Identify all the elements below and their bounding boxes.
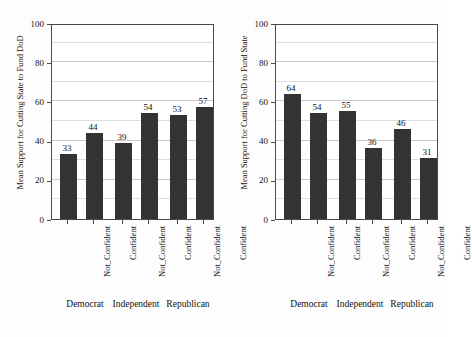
x-axis-tick-mark	[67, 220, 68, 224]
y-axis-tick-label-left: 60	[0, 98, 51, 107]
y-axis-tick-label-right: 40	[224, 137, 275, 146]
y-axis-tick-mark	[271, 102, 275, 103]
x-axis-tick-mark	[401, 220, 402, 224]
bar-value-label: 33	[50, 143, 84, 153]
x-axis-tick-label: Not_Confident	[327, 226, 336, 298]
bar	[86, 133, 103, 219]
x-axis-tick-label: Confident	[408, 226, 417, 298]
x-axis-tick-mark	[291, 220, 292, 224]
y-axis-tick-label-right: 100	[224, 20, 275, 29]
x-axis-tick-label: Not_Confident	[382, 226, 391, 298]
x-axis-tick-mark	[372, 220, 373, 224]
x-axis-tick-label: Not_Confident	[437, 226, 446, 298]
gridline-minor	[276, 42, 437, 43]
y-axis-tick-label-right: 0	[224, 216, 275, 225]
x-axis-tick-label: Confident	[463, 226, 472, 298]
y-axis-tick-mark	[271, 24, 275, 25]
y-axis-tick-label-right: 60	[224, 98, 275, 107]
bar-value-label: 39	[105, 132, 139, 142]
y-axis-tick-label-left: 80	[0, 59, 51, 68]
x-axis-tick-mark	[177, 220, 178, 224]
bar-value-label: 55	[329, 100, 363, 110]
x-axis-tick-mark	[427, 220, 428, 224]
bar-value-label: 64	[274, 83, 308, 93]
y-axis-tick-mark	[271, 181, 275, 182]
x-axis-tick-mark	[122, 220, 123, 224]
y-axis-tick-label-right: 80	[224, 59, 275, 68]
y-axis-tick-mark	[47, 220, 51, 221]
bar	[339, 111, 356, 219]
x-axis-tick-mark	[203, 220, 204, 224]
bar	[310, 113, 327, 219]
bar-value-label: 57	[186, 96, 220, 106]
chart-panel-left: Mean Support for Cutting State to Fund D…	[0, 0, 223, 337]
bar	[420, 158, 437, 219]
bar	[284, 94, 301, 219]
y-axis-tick-label-left: 40	[0, 137, 51, 146]
x-axis-tick-label: Not_Confident	[103, 226, 112, 298]
y-axis-tick-mark	[271, 63, 275, 64]
group-label-republican: Republican	[143, 299, 233, 310]
y-axis-tick-mark	[271, 142, 275, 143]
x-axis-tick-label: Confident	[184, 226, 193, 298]
bar	[365, 148, 382, 219]
x-axis-tick-mark	[93, 220, 94, 224]
x-axis-tick-mark	[317, 220, 318, 224]
y-axis-tick-mark	[47, 63, 51, 64]
gridline-minor	[52, 42, 213, 43]
y-axis-tick-mark	[47, 24, 51, 25]
y-axis-tick-label-left: 100	[0, 20, 51, 29]
bar-value-label: 46	[384, 118, 418, 128]
x-axis-tick-mark	[148, 220, 149, 224]
bar	[115, 143, 132, 219]
gridline-major	[52, 61, 213, 62]
bar-value-label: 44	[76, 122, 110, 132]
bar-value-label: 31	[410, 147, 444, 157]
x-axis-tick-label: Confident	[129, 226, 138, 298]
chart-panel-right: Mean Support for Cutting DoD to Fund Sta…	[224, 0, 447, 337]
y-axis-tick-label-left: 20	[0, 176, 51, 185]
y-axis-tick-mark	[47, 181, 51, 182]
bar	[141, 113, 158, 219]
group-label-republican: Republican	[367, 299, 457, 310]
y-axis-tick-mark	[271, 220, 275, 221]
y-axis-tick-label-right: 20	[224, 176, 275, 185]
x-axis-tick-label: Not_Confident	[158, 226, 167, 298]
x-axis-tick-mark	[346, 220, 347, 224]
x-axis-tick-label: Confident	[353, 226, 362, 298]
gridline-major	[276, 61, 437, 62]
bar-value-label: 36	[355, 137, 389, 147]
y-axis-tick-label-left: 0	[0, 216, 51, 225]
x-axis-tick-label: Not_Confident	[213, 226, 222, 298]
bar	[60, 154, 77, 219]
y-axis-tick-mark	[47, 102, 51, 103]
gridline-minor	[52, 81, 213, 82]
bar	[170, 115, 187, 219]
bar	[196, 107, 213, 219]
bar	[394, 129, 411, 219]
